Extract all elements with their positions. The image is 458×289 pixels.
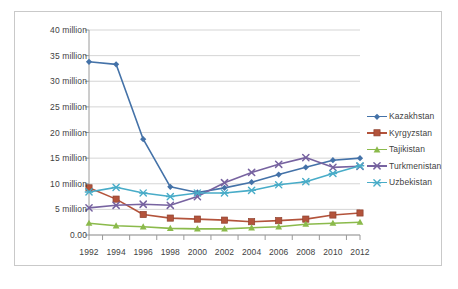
legend-item-uzbekistan[interactable]: Uzbekistan: [367, 174, 443, 191]
legend-item-turkmenistan[interactable]: Turkmenistan: [367, 158, 443, 175]
legend-marker-asterisk-icon: [367, 177, 387, 188]
x-axis-tick-label: 1996: [134, 247, 153, 257]
data-point-marker: [374, 163, 380, 169]
chart-legend: KazakhstanKyrgyzstanTajikistanTurkmenist…: [367, 108, 443, 191]
legend-label: Kazakhstan: [389, 111, 434, 121]
x-axis-tick-label: 2002: [215, 247, 234, 257]
x-axis-tick-label: 1998: [161, 247, 180, 257]
legend-label: Turkmenistan: [389, 161, 441, 171]
x-axis-tick-label: 2006: [269, 247, 288, 257]
x-axis-tick-label: 2004: [242, 247, 261, 257]
legend-marker-triangle-icon: [367, 144, 387, 155]
legend-item-kazakhstan[interactable]: Kazakhstan: [367, 108, 443, 125]
legend-label: Kyrgyzstan: [389, 128, 432, 138]
data-point-marker: [373, 179, 380, 185]
chart-frame: 0.005 million10 million15 million20 mill…: [14, 11, 442, 266]
legend-label: Uzbekistan: [389, 177, 432, 187]
legend-label: Tajikistan: [389, 144, 425, 154]
x-axis-tick-label: 2008: [296, 247, 315, 257]
legend-marker-x-icon: [367, 160, 387, 171]
x-axis-tick-label: 1994: [106, 247, 125, 257]
legend-item-kyrgyzstan[interactable]: Kyrgyzstan: [367, 125, 443, 142]
data-point-marker: [374, 113, 380, 119]
x-axis-tick-label: 2012: [350, 247, 369, 257]
x-axis-tick-label: 1992: [79, 247, 98, 257]
plot-area: 0.005 million10 million15 million20 mill…: [15, 12, 441, 265]
legend-marker-square-icon: [367, 127, 387, 138]
data-point-marker: [374, 146, 381, 152]
data-point-marker: [374, 130, 380, 136]
legend-marker-diamond-icon: [367, 111, 387, 122]
legend-item-tajikistan[interactable]: Tajikistan: [367, 141, 443, 158]
x-axis-tick-label: 2000: [188, 247, 207, 257]
x-axis-tick-label: 2010: [323, 247, 342, 257]
